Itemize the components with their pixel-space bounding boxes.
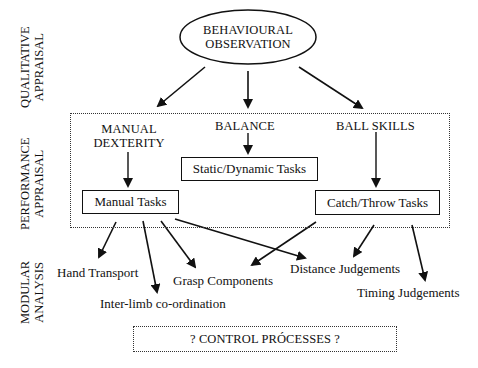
category-line: MANUAL: [90, 122, 168, 136]
root-node: BEHAVIOURAL OBSERVATION: [180, 23, 316, 51]
side-label-line: ANALYSIS: [32, 261, 46, 324]
category-balance: BALANCE: [215, 119, 275, 133]
side-label-line: PERFORMANCE: [18, 138, 32, 230]
control-processes-box: ? CONTROL PRÓCESSES ?: [133, 326, 397, 352]
category-ball-skills: BALL SKILLS: [336, 119, 415, 133]
side-label-qualitative: QUALITATIVE APPRAISAL: [18, 26, 46, 108]
side-label-line: MODULAR: [18, 261, 32, 324]
component-timing: Timing Judgements: [357, 286, 459, 300]
task-label: Catch/Throw Tasks: [327, 195, 428, 211]
root-line-2: OBSERVATION: [180, 37, 316, 51]
side-label-line: QUALITATIVE: [18, 26, 32, 108]
side-label-performance: PERFORMANCE APPRAISAL: [18, 138, 46, 230]
task-label: Manual Tasks: [94, 194, 166, 210]
component-inter-limb: Inter-limb co-ordination: [100, 297, 226, 311]
component-grasp: Grasp Components: [173, 274, 273, 288]
side-label-line: APPRAISAL: [32, 26, 46, 108]
task-box-manual: Manual Tasks: [82, 190, 179, 214]
side-label-line: APPRAISAL: [32, 138, 46, 230]
task-label: Static/Dynamic Tasks: [193, 161, 306, 177]
category-manual-dexterity: MANUAL DEXTERITY: [90, 122, 168, 150]
component-distance: Distance Judgements: [290, 262, 400, 276]
root-line-1: BEHAVIOURAL: [180, 23, 316, 37]
control-processes-label: ? CONTROL PRÓCESSES ?: [190, 332, 340, 347]
side-label-modular: MODULAR ANALYSIS: [18, 261, 46, 324]
task-box-catch-throw: Catch/Throw Tasks: [315, 190, 440, 215]
component-hand-transport: Hand Transport: [57, 266, 138, 280]
category-line: DEXTERITY: [90, 136, 168, 150]
task-box-static-dynamic: Static/Dynamic Tasks: [181, 157, 318, 181]
